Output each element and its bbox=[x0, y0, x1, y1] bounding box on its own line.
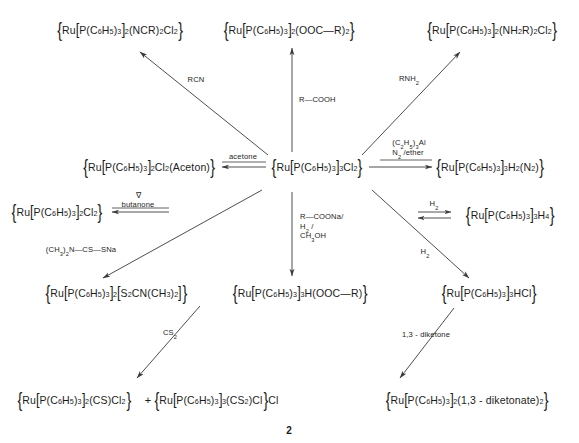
arrow-hcl-to-diketonate bbox=[400, 308, 454, 378]
node-ru-cl2-center: {Ru[P(C6H5)3]3Cl2} bbox=[271, 158, 364, 176]
reagent-label-h2-lower: H2 bbox=[421, 247, 430, 257]
reagent-label-h2-equil-line: H2 bbox=[430, 199, 439, 209]
node-ru-h4: {Ru[P(C6H5)3]3H4} bbox=[465, 206, 555, 224]
reagent-label-butanone-line: butanone bbox=[122, 200, 155, 210]
reagent-label-h2-equil: H2 bbox=[430, 199, 439, 209]
node-ru-ncr2cl2: {Ru[P(C6H5)3]2(NCR)2Cl2} bbox=[56, 21, 183, 39]
reagent-label-rnh2-line: RNH2 bbox=[399, 74, 419, 84]
node-ru-hcl: {Ru[P(C6H5)3]3HCl} bbox=[441, 284, 537, 302]
node-ru-h2n2: {Ru[P(C6H5)3]3H2(N2)} bbox=[435, 158, 544, 176]
reagent-label-cs2: CS2 bbox=[163, 328, 177, 338]
reagent-label-rcoona-line: H2 / bbox=[300, 222, 343, 232]
reagent-label-diketone-line: 1,3 - diketone bbox=[402, 330, 450, 340]
reagent-label-rcoona: R—COONa/H2 /CH3OH bbox=[300, 212, 343, 241]
reagent-label-rcooh-line: R—COOH bbox=[299, 95, 336, 105]
reagent-label-h2-lower-line: H2 bbox=[421, 247, 430, 257]
arrow-center-to-ncr2cl2 bbox=[140, 52, 268, 155]
node-ru-cl2-left: {Ru[P(C6H5)3]2Cl2} bbox=[11, 203, 104, 221]
nabla-icon: ∇ bbox=[136, 192, 141, 200]
equilibrium-arrow-h2 bbox=[418, 212, 451, 218]
reagent-label-rcn: RCN bbox=[188, 75, 205, 85]
reagent-label-acetone: acetone bbox=[229, 152, 257, 162]
reagent-label-dithiocarbamate: (CH3)2N—CS—SNa bbox=[46, 245, 116, 255]
reagent-label-cs2-line: CS2 bbox=[163, 328, 177, 338]
reagent-label-rcooh: R—COOH bbox=[299, 95, 336, 105]
node-ru-oocr2: {Ru[P(C6H5)3]2(OOC—R)2} bbox=[223, 21, 356, 39]
page-number: 2 bbox=[286, 425, 292, 436]
plus-sign: + bbox=[145, 394, 151, 406]
reagent-label-et3al-n2-line: (C2H5)3Al bbox=[392, 138, 426, 148]
reagent-label-diketone: 1,3 - diketone bbox=[402, 330, 450, 340]
reagent-label-et3al-n2: (C2H5)3AlN2 /ether bbox=[392, 138, 426, 157]
arrow-center-to-hcl bbox=[372, 190, 469, 278]
node-ru-cs2-cl: {Ru[P(C6H5)3]3(CS2)Cl}Cl bbox=[153, 391, 278, 409]
reagent-label-butanone: butanone bbox=[122, 200, 155, 210]
node-ru-nh2r2cl2: {Ru[P(C6H5)3]2(NH2R)2Cl2} bbox=[426, 21, 557, 39]
reagent-label-acetone-line: acetone bbox=[229, 152, 257, 162]
arrow-s2cn-to-cs-cl2 bbox=[137, 306, 200, 378]
reagent-label-dithiocarbamate-line: (CH3)2N—CS—SNa bbox=[46, 245, 116, 255]
reagent-label-rcn-line: RCN bbox=[188, 75, 205, 85]
node-ru-diketonate: {Ru[P(C6H5)3]2(1,3 - diketonate)2} bbox=[385, 391, 550, 409]
node-ru-cs-cl2: {Ru[P(C6H5)3]2(CS)Cl2} bbox=[17, 391, 132, 409]
node-ru-cl2-aceton: {Ru[P(C6H5)3]2Cl2(Aceton)} bbox=[82, 158, 216, 176]
node-ru-s2cn: {Ru[P(C6H5)3]2[S2CN(CH3)2]} bbox=[45, 284, 188, 302]
node-ru-h-oocr: {Ru[P(C6H5)3]3H(OOC—R)} bbox=[232, 284, 368, 302]
reagent-label-rnh2: RNH2 bbox=[399, 74, 419, 84]
reagent-label-rcoona-line: R—COONa/ bbox=[300, 212, 343, 222]
